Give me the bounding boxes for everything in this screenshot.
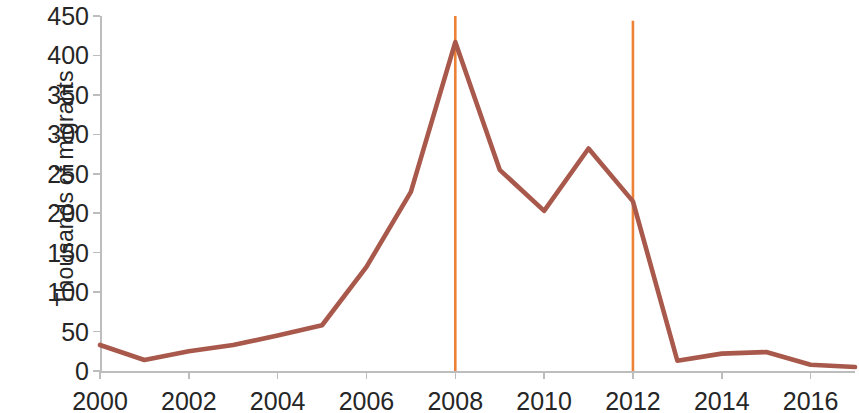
x-tick-mark bbox=[543, 371, 545, 379]
y-tick-mark bbox=[93, 331, 100, 333]
y-tick-mark bbox=[93, 252, 100, 254]
x-tick-label: 2010 bbox=[516, 389, 572, 413]
x-tick-mark bbox=[366, 371, 368, 379]
x-tick-label: 2008 bbox=[427, 389, 483, 413]
x-tick-label: 2000 bbox=[72, 389, 128, 413]
y-tick-mark bbox=[93, 291, 100, 293]
x-tick-label: 2004 bbox=[250, 389, 306, 413]
x-tick-mark bbox=[810, 371, 812, 379]
y-tick-mark bbox=[93, 15, 100, 17]
x-tick-mark bbox=[455, 371, 457, 379]
x-tick-mark bbox=[632, 371, 634, 379]
y-tick-mark bbox=[93, 55, 100, 57]
y-tick-label: 400 bbox=[47, 43, 89, 68]
y-tick-mark bbox=[93, 134, 100, 136]
x-tick-label: 2014 bbox=[694, 389, 750, 413]
x-tick-mark bbox=[188, 371, 190, 379]
y-tick-label: 200 bbox=[47, 201, 89, 226]
y-tick-label: 350 bbox=[47, 82, 89, 107]
line-chart: Thousands of migrants 050100150200250300… bbox=[0, 0, 859, 413]
y-tick-mark bbox=[93, 173, 100, 175]
y-tick-label: 250 bbox=[47, 161, 89, 186]
x-tick-label: 2006 bbox=[339, 389, 395, 413]
y-tick-label: 450 bbox=[47, 4, 89, 29]
y-tick-label: 300 bbox=[47, 122, 89, 147]
y-tick-mark bbox=[93, 212, 100, 214]
x-tick-mark bbox=[277, 371, 279, 379]
y-tick-label: 150 bbox=[47, 240, 89, 265]
data-series-line bbox=[100, 42, 855, 367]
plot-area: 050100150200250300350400450 200020022004… bbox=[100, 16, 855, 371]
x-tick-label: 2016 bbox=[783, 389, 839, 413]
y-tick-label: 50 bbox=[61, 319, 89, 344]
x-tick-label: 2002 bbox=[161, 389, 217, 413]
y-tick-label: 100 bbox=[47, 280, 89, 305]
y-tick-mark bbox=[93, 94, 100, 96]
y-tick-label: 0 bbox=[75, 359, 89, 384]
x-tick-label: 2012 bbox=[605, 389, 661, 413]
x-tick-mark bbox=[721, 371, 723, 379]
x-tick-mark bbox=[99, 371, 101, 379]
series-layer bbox=[100, 16, 855, 372]
